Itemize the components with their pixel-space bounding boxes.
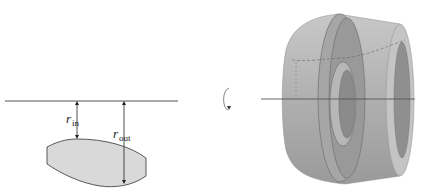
r-in-subscript: in — [72, 118, 79, 128]
r-out-subscript: out — [119, 133, 131, 143]
solid-right-face-hole — [394, 42, 410, 158]
washer-inner-hole — [339, 70, 355, 138]
rotation-arrow-icon — [224, 88, 231, 110]
r-out-label: rout — [113, 127, 131, 140]
r-out-symbol: r — [113, 126, 118, 141]
solid-of-revolution — [261, 14, 415, 184]
r-in-label: rin — [66, 112, 79, 125]
region-shape — [47, 139, 146, 187]
cross-section-panel — [5, 101, 178, 187]
r-in-symbol: r — [66, 111, 71, 126]
diagram-canvas — [0, 0, 430, 196]
